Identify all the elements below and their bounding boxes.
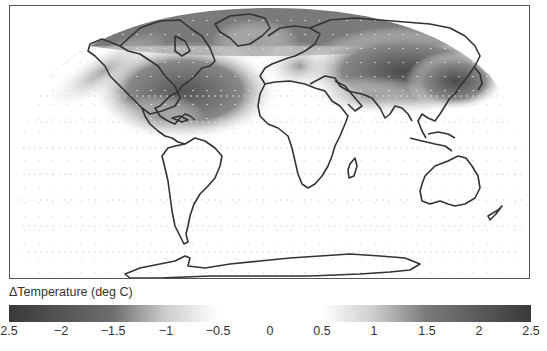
tick-label: 0.5 bbox=[313, 324, 330, 338]
tick-label: 0 bbox=[267, 324, 274, 338]
tick-label: 2.5 bbox=[0, 324, 17, 338]
map-shading bbox=[10, 6, 530, 279]
tick-label: −2 bbox=[54, 324, 68, 338]
map-panel bbox=[9, 5, 530, 279]
tick-label: 2.5 bbox=[522, 324, 539, 338]
world-map bbox=[10, 6, 530, 279]
tick-label: −0.5 bbox=[206, 324, 231, 338]
tick-label: −1 bbox=[159, 324, 173, 338]
tick-label: 1.5 bbox=[418, 324, 435, 338]
colorbar-ticks: 2.5 −2 −1.5 −1 −0.5 0 0.5 1 1.5 2 2.5 bbox=[0, 324, 547, 344]
tick-label: 1 bbox=[371, 324, 378, 338]
tick-label: −1.5 bbox=[101, 324, 126, 338]
colorbar-title: ΔTemperature (deg C) bbox=[9, 285, 133, 299]
tick-label: 2 bbox=[476, 324, 483, 338]
colorbar bbox=[9, 305, 531, 322]
